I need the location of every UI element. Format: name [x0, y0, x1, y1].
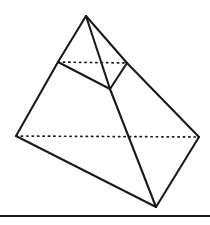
face-fills	[16, 16, 199, 207]
geometric-figure-svg	[0, 0, 210, 225]
figure-canvas	[0, 0, 210, 225]
